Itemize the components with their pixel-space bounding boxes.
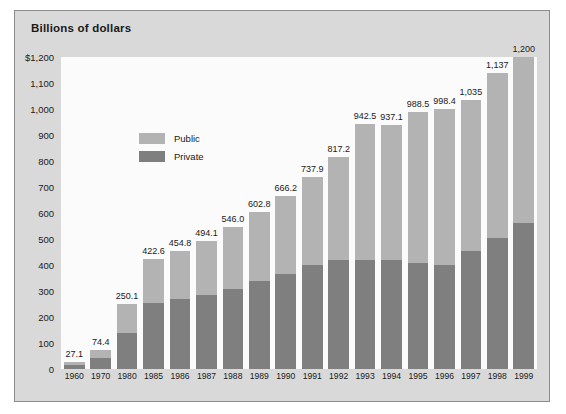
legend-private: Private [139, 149, 204, 163]
bar-value-label: 602.8 [248, 199, 271, 209]
bar-1988 [223, 227, 244, 369]
bar-value-label: 546.0 [222, 214, 245, 224]
bar-value-label: 817.2 [327, 144, 350, 154]
bar-1987 [196, 241, 217, 369]
bar-segment-public [143, 259, 164, 303]
bar-segment-public [302, 177, 323, 265]
bar-value-label: 1,137 [486, 60, 509, 70]
bar-segment-private [223, 289, 244, 369]
bar-value-label: 74.4 [92, 337, 110, 347]
bar-1994 [381, 125, 402, 369]
bar-1970 [90, 350, 111, 369]
legend-swatch-icon [139, 151, 165, 162]
y-axis-tick: 700 [38, 182, 54, 193]
x-axis-tick: 1970 [91, 371, 110, 381]
bar-segment-public [275, 196, 296, 274]
bar-segment-public [223, 227, 244, 289]
chart-figure: Billions of dollars $1,2001,1001,0009008… [14, 10, 550, 402]
x-axis-tick: 1985 [144, 371, 163, 381]
bar-1992 [328, 157, 349, 369]
bar-segment-private [328, 260, 349, 369]
legend-swatch-icon [139, 133, 165, 144]
bar-segment-private [143, 303, 164, 369]
x-axis-tick: 1960 [65, 371, 84, 381]
bar-segment-private [461, 251, 482, 369]
x-axis-tick: 1989 [250, 371, 269, 381]
x-axis-tick: 1997 [461, 371, 480, 381]
bar-1980 [117, 304, 138, 369]
plot-area: 27.174.4250.1422.6454.8494.1546.0602.866… [61, 57, 537, 369]
bar-value-label: 1,035 [460, 87, 483, 97]
bar-1960 [64, 362, 85, 369]
y-axis-tick: 400 [38, 260, 54, 271]
y-axis-tick: 900 [38, 130, 54, 141]
x-axis-tick: 1990 [276, 371, 295, 381]
y-axis-tick: $1,200 [25, 52, 54, 63]
bar-value-label: 250.1 [116, 291, 139, 301]
x-axis-tick: 1995 [408, 371, 427, 381]
x-axis-tick: 1992 [329, 371, 348, 381]
bar-1989 [249, 212, 270, 369]
bar-segment-private [249, 281, 270, 369]
x-axis-tick: 1999 [514, 371, 533, 381]
bar-segment-public [461, 100, 482, 251]
bar-segment-private [170, 299, 191, 369]
y-axis-tick: 300 [38, 286, 54, 297]
bar-segment-public [487, 73, 508, 237]
bar-segment-private [275, 274, 296, 369]
bar-1993 [355, 124, 376, 369]
y-axis-tick: 500 [38, 234, 54, 245]
x-axis-tick: 1991 [303, 371, 322, 381]
bar-1996 [434, 109, 455, 369]
bar-1990 [275, 196, 296, 369]
bar-value-label: 998.4 [433, 96, 456, 106]
y-axis-tick: 600 [38, 208, 54, 219]
bar-segment-private [90, 358, 111, 369]
bar-value-label: 27.1 [65, 349, 83, 359]
bar-1999 [513, 57, 534, 369]
bar-value-label: 422.6 [142, 246, 165, 256]
chart-legend: PublicPrivate [139, 131, 204, 167]
bar-segment-private [117, 333, 138, 369]
bar-value-label: 666.2 [275, 183, 298, 193]
y-axis-tick: 800 [38, 156, 54, 167]
bar-segment-private [408, 263, 429, 369]
x-axis-tick: 1988 [223, 371, 242, 381]
bar-segment-public [381, 125, 402, 260]
x-axis: 1960197019801985198619871988198919901991… [61, 371, 537, 387]
x-axis-tick: 1986 [170, 371, 189, 381]
y-axis: $1,2001,1001,000900800700600500400300200… [15, 57, 59, 369]
bar-segment-public [355, 124, 376, 260]
bar-segment-public [408, 112, 429, 263]
bar-1986 [170, 251, 191, 369]
bar-segment-public [513, 57, 534, 223]
bar-value-label: 494.1 [195, 228, 218, 238]
x-axis-tick: 1980 [118, 371, 137, 381]
x-axis-tick: 1987 [197, 371, 216, 381]
title-band: Billions of dollars [15, 11, 549, 49]
bar-segment-private [434, 265, 455, 369]
bar-segment-private [64, 365, 85, 369]
bar-segment-private [513, 223, 534, 369]
bar-segment-private [355, 260, 376, 369]
legend-public: Public [139, 131, 204, 145]
bar-group: 27.174.4250.1422.6454.8494.1546.0602.866… [61, 57, 537, 369]
bar-1991 [302, 177, 323, 369]
page-title: Billions of dollars [31, 22, 131, 34]
x-axis-tick: 1994 [382, 371, 401, 381]
bar-segment-private [487, 238, 508, 369]
legend-label: Private [174, 151, 204, 162]
bar-segment-public [328, 157, 349, 261]
bar-segment-public [434, 109, 455, 265]
bar-1997 [461, 100, 482, 369]
bar-segment-private [302, 265, 323, 369]
legend-label: Public [174, 133, 200, 144]
bar-segment-public [196, 241, 217, 296]
x-axis-tick: 1993 [356, 371, 375, 381]
bar-1985 [143, 259, 164, 369]
bar-value-label: 737.9 [301, 164, 324, 174]
y-axis-tick: 100 [38, 338, 54, 349]
bar-value-label: 937.1 [380, 112, 403, 122]
y-axis-tick: 1,100 [30, 78, 54, 89]
y-axis-tick: 200 [38, 312, 54, 323]
